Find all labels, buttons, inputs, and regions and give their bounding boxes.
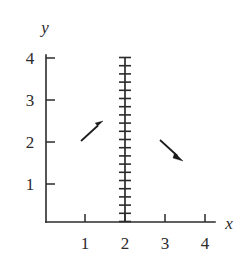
x-tick-label-3: 3 [161,234,170,253]
x-tick-label-1: 1 [81,234,90,253]
figure-root: y x 4 3 2 1 1 2 3 4 [0,0,248,270]
y-tick-label-3: 3 [26,91,35,110]
y-tick-label-1: 1 [26,175,35,194]
y-tick-label-4: 4 [26,49,35,68]
arrow-up-right [81,121,103,141]
x-tick-label-4: 4 [201,234,210,253]
arrow-down-right-head [173,153,183,161]
equilibrium-hatch-group [119,58,131,222]
diagram-canvas: y x 4 3 2 1 1 2 3 4 [0,0,248,270]
y-tick-label-2: 2 [26,133,35,152]
x-tick-label-2: 2 [121,234,130,253]
y-axis-label: y [39,18,49,37]
arrow-up-right-shaft [81,126,98,142]
arrow-down-right [160,140,183,161]
arrow-up-right-head [95,121,103,126]
x-axis-label: x [224,214,233,233]
